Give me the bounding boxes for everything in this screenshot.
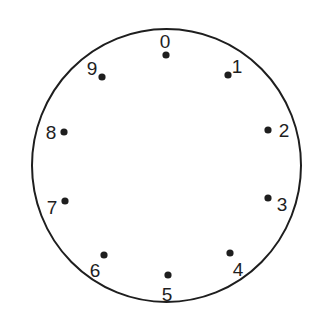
dial-position-4: 4 <box>226 249 243 280</box>
digit-label: 2 <box>279 120 290 141</box>
dial-position-2: 2 <box>264 120 289 141</box>
digit-label: 3 <box>277 194 288 215</box>
dial-position-7: 7 <box>47 197 69 218</box>
dial-position-8: 8 <box>46 122 68 143</box>
dial-position-1: 1 <box>224 56 242 79</box>
dot-marker <box>226 249 233 256</box>
dot-marker <box>100 251 107 258</box>
dot-marker <box>60 128 67 135</box>
dial-ring <box>32 29 301 302</box>
dot-marker <box>98 73 105 80</box>
dot-marker <box>164 271 171 278</box>
dial-position-3: 3 <box>264 194 287 215</box>
dot-marker <box>61 197 68 204</box>
dot-marker <box>224 71 231 78</box>
dial-positions: 0123456789 <box>46 31 290 305</box>
digit-label: 5 <box>162 284 173 305</box>
digit-label: 4 <box>233 259 244 280</box>
dot-marker <box>264 194 271 201</box>
digit-label: 0 <box>160 31 171 52</box>
dial-position-5: 5 <box>162 271 173 305</box>
dot-marker <box>264 126 271 133</box>
dial-position-9: 9 <box>87 58 106 81</box>
digit-label: 6 <box>90 260 101 281</box>
digit-label: 7 <box>47 197 58 218</box>
digit-label: 8 <box>46 122 57 143</box>
digit-label: 1 <box>232 56 243 77</box>
dial-position-6: 6 <box>90 251 108 281</box>
digit-label: 9 <box>87 58 98 79</box>
dot-marker <box>162 51 169 58</box>
dial-position-0: 0 <box>160 31 171 59</box>
rotary-dial-diagram: 0123456789 <box>0 0 320 318</box>
